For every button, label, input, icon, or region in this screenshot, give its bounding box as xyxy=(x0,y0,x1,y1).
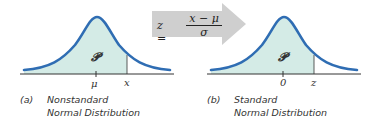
normal-distribution-diagram: z = x − μ σ 𝓟 μ x (a) Nonstandard Normal… xyxy=(0,0,371,128)
panel-a-caption-line2: Normal Distribution xyxy=(47,106,140,119)
panel-b-caption-line2: Normal Distribution xyxy=(234,106,327,119)
panel-b-probability-label: 𝓟 xyxy=(278,50,287,64)
panel-a-caption-letter: (a) xyxy=(20,93,33,106)
formula-fraction: x − μ σ xyxy=(186,12,222,39)
formula-numerator: x − μ xyxy=(186,12,222,26)
panel-b-zero-tick-label: 0 xyxy=(280,77,286,88)
panel-a-graph xyxy=(20,17,174,77)
panel-a-mu-tick-label: μ xyxy=(91,78,98,89)
formula-denominator: σ xyxy=(186,26,222,39)
formula-lhs: z = xyxy=(157,19,166,45)
panel-b-z-tick-label: z xyxy=(311,77,316,88)
panel-b-caption-line1: Standard xyxy=(234,93,277,106)
panel-a-x-tick-label: x xyxy=(124,77,130,88)
panel-a-caption-line1: Nonstandard xyxy=(47,93,108,106)
panel-b-caption-letter: (b) xyxy=(207,93,220,106)
panel-a-probability-label: 𝓟 xyxy=(91,50,100,64)
